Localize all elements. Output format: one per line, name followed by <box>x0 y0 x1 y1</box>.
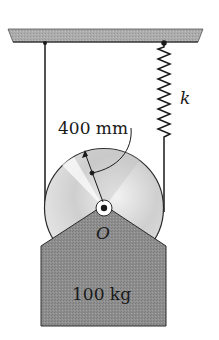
left-rope <box>43 41 47 212</box>
axle-hub <box>96 200 112 216</box>
diagram-canvas: 400 mm k O 100 kg <box>0 0 219 340</box>
center-label: O <box>96 223 110 243</box>
radius-label: 400 mm <box>58 118 128 138</box>
ceiling <box>8 29 203 42</box>
spring-constant-label: k <box>180 88 190 108</box>
mass-label: 100 kg <box>72 284 131 304</box>
